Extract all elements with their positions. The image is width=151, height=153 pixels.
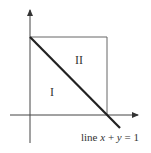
unit-square-diagram: II I line x + y = 1 (0, 0, 151, 153)
line-label: line x + y = 1 (81, 131, 139, 143)
line-label-rest: = 1 (122, 131, 139, 143)
region-label-I: I (50, 85, 54, 99)
line-label-prefix: line (81, 131, 100, 143)
region-label-II: II (75, 53, 83, 67)
line-label-plus: + (105, 131, 117, 143)
